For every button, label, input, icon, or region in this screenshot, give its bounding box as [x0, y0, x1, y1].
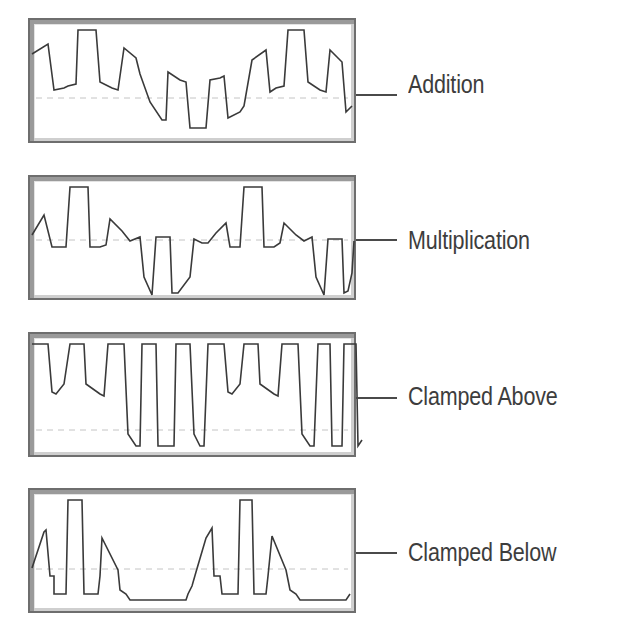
addition-panel: [28, 18, 356, 143]
multiplication-signal: [32, 187, 354, 295]
addition-signal: [32, 30, 352, 128]
multiplication-panel: [28, 175, 356, 300]
clamped-above-connector: [356, 397, 397, 399]
clamped-below-signal: [32, 500, 350, 600]
addition-waveform: [30, 20, 354, 141]
clamped-below-label: Clamped Below: [408, 538, 556, 567]
clamped-above-waveform: [30, 334, 354, 455]
clamped-above-signal: [32, 344, 362, 446]
multiplication-label: Multiplication: [408, 226, 530, 255]
clamped-above-panel: [28, 332, 356, 457]
multiplication-connector: [356, 239, 397, 241]
clamped-below-connector: [356, 552, 397, 554]
clamped-below-waveform: [30, 490, 354, 611]
addition-connector: [356, 94, 397, 96]
clamped-below-panel: [28, 488, 356, 613]
addition-label: Addition: [408, 70, 484, 99]
multiplication-waveform: [30, 177, 354, 298]
clamped-above-label: Clamped Above: [408, 382, 558, 411]
